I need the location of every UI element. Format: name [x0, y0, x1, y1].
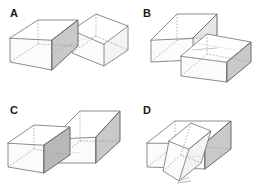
panel-c-drawing: C [0, 97, 133, 193]
panel-a: A [0, 0, 133, 96]
panel-a-drawing: A [0, 0, 133, 96]
panel-b: B [133, 0, 266, 96]
panel-b-drawing: B [133, 0, 266, 96]
panel-b-label: B [143, 7, 151, 19]
panel-d-drawing: D [133, 97, 266, 193]
panel-a-label: A [10, 7, 18, 19]
panel-a-left-box [10, 20, 78, 70]
panel-c: C [0, 97, 133, 193]
panel-c-left-box [8, 125, 70, 173]
panel-d: D [133, 97, 266, 193]
panel-a-right-box [72, 14, 128, 66]
panel-d-label: D [143, 104, 151, 116]
panel-c-label: C [10, 104, 18, 116]
figure-root: A [0, 0, 266, 193]
